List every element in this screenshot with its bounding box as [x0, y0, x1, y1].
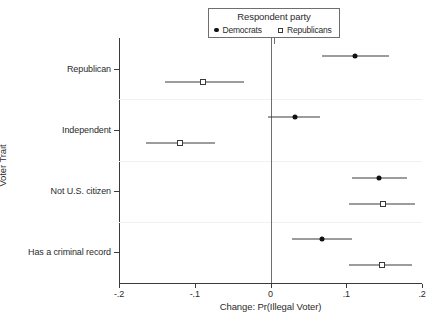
x-axis-tick — [195, 284, 196, 288]
legend-entry-label: Democrats — [223, 25, 262, 35]
legend-entry-label: Republicans — [287, 25, 332, 35]
legend-entry-republicans[interactable]: Republicans — [278, 25, 332, 35]
legend-title: Respondent party — [209, 11, 339, 22]
data-point-democrats[interactable] — [376, 176, 381, 181]
open-square-icon — [278, 28, 283, 33]
data-point-republicans[interactable] — [380, 201, 386, 207]
x-axis-tick-label: -.2 — [104, 289, 134, 299]
coefficient-plot-figure: Respondent party Democrats Republicans C… — [0, 0, 441, 321]
data-point-republicans[interactable] — [200, 79, 206, 85]
data-point-democrats[interactable] — [352, 53, 357, 58]
data-point-republicans[interactable] — [379, 262, 385, 268]
data-point-democrats[interactable] — [320, 237, 325, 242]
zero-reference-line — [271, 38, 272, 283]
x-axis-tick-label: 0 — [256, 289, 286, 299]
y-axis-tick — [114, 191, 119, 192]
x-axis-tick — [271, 284, 272, 288]
plot-area — [119, 38, 422, 283]
x-axis-tick-label: .1 — [331, 289, 361, 299]
y-axis-tick — [114, 69, 119, 70]
x-axis-tick-label: .2 — [407, 289, 437, 299]
filled-circle-icon — [214, 28, 219, 33]
x-axis-tick — [119, 284, 120, 288]
y-axis-category-label: Republican — [67, 64, 111, 74]
y-axis-category-label: Independent — [62, 125, 111, 135]
x-axis-tick — [422, 284, 423, 288]
y-axis-category-label: Not U.S. citizen — [51, 186, 111, 196]
y-axis-tick — [114, 130, 119, 131]
legend-entry-democrats[interactable]: Democrats — [214, 25, 262, 35]
data-point-democrats[interactable] — [293, 114, 298, 119]
y-axis-tick — [114, 252, 119, 253]
x-axis-title: Change: Pr(Illegal Voter) — [119, 301, 422, 312]
y-axis-title: Voter Trait — [0, 144, 8, 186]
x-axis-tick-label: -.1 — [180, 289, 210, 299]
legend: Respondent party Democrats Republicans — [208, 8, 340, 38]
y-axis-category-label: Has a criminal record — [28, 247, 111, 257]
data-point-republicans[interactable] — [177, 140, 183, 146]
x-axis-tick — [346, 284, 347, 288]
